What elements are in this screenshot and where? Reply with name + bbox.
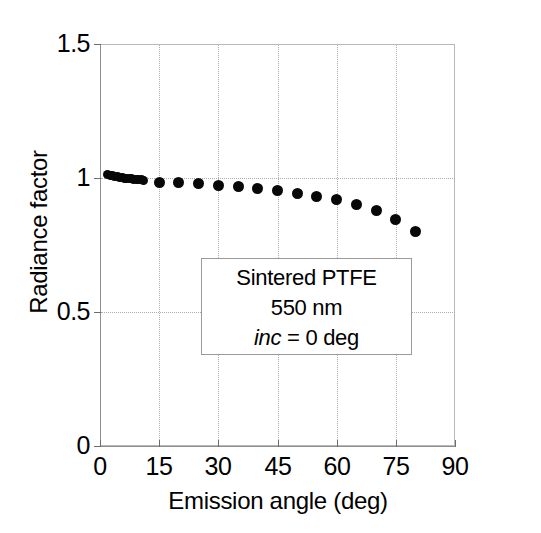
gridline-vertical [396, 45, 397, 446]
chart-figure: 0153045607590 00.511.5 Sintered PTFE 550… [0, 0, 541, 533]
y-tick-label: 0.5 [57, 297, 90, 326]
gridline-vertical [337, 45, 338, 446]
x-tick [396, 440, 397, 447]
y-tick [94, 44, 101, 45]
y-tick [94, 178, 101, 179]
x-tick [159, 440, 160, 447]
annotation-line-2: 550 nm [202, 293, 411, 323]
data-point [213, 180, 224, 191]
x-tick [278, 440, 279, 447]
annotation-inc-value: = 0 deg [281, 325, 359, 350]
data-point [139, 176, 148, 185]
y-tick-label: 1 [77, 163, 90, 192]
x-tick-label: 15 [129, 452, 189, 481]
annotation-box: Sintered PTFE 550 nm inc = 0 deg [201, 258, 412, 355]
y-axis-title: Radiance factor [25, 112, 53, 352]
data-point [154, 177, 165, 188]
x-tick-label: 45 [248, 452, 308, 481]
annotation-inc-symbol: inc [254, 325, 281, 350]
gridline-vertical [218, 45, 219, 446]
annotation-line-3: inc = 0 deg [202, 323, 411, 353]
x-tick-label: 60 [307, 452, 367, 481]
x-tick-label: 75 [366, 452, 426, 481]
x-tick [218, 440, 219, 447]
data-point [292, 188, 303, 199]
annotation-line-1: Sintered PTFE [202, 263, 411, 293]
x-tick [337, 440, 338, 447]
data-point [233, 181, 244, 192]
x-tick-label: 30 [188, 452, 248, 481]
x-tick-label: 90 [425, 452, 485, 481]
gridline-vertical [278, 45, 279, 446]
y-tick-label: 1.5 [57, 29, 90, 58]
y-tick-label: 0 [77, 431, 90, 460]
x-tick [455, 440, 456, 447]
y-axis-line [100, 44, 101, 447]
y-tick [94, 446, 101, 447]
x-axis-title: Emission angle (deg) [100, 487, 456, 515]
gridline-vertical [159, 45, 160, 446]
y-tick [94, 312, 101, 313]
